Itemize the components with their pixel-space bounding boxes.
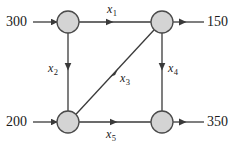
outbound-arrowhead-top [179,19,187,26]
bottom-left-node[interactable] [57,111,79,133]
edge-x1-arrowhead [106,19,114,26]
outbound-arrowhead-bottom [179,119,187,126]
flow-graph-canvas [0,0,235,144]
external-flow-arrows [33,19,204,126]
bottom-right-node[interactable] [151,111,173,133]
top-right-node[interactable] [151,11,173,33]
internal-flow-edges [65,19,166,126]
network-flow-diagram: 300 150 200 350 x1 x2 x3 x4 x5 [0,0,235,144]
top-left-node[interactable] [57,11,79,33]
edge-x4-arrowhead [159,63,166,71]
edge-x5-arrowhead [110,119,118,126]
edge-x2-arrowhead [65,63,72,71]
